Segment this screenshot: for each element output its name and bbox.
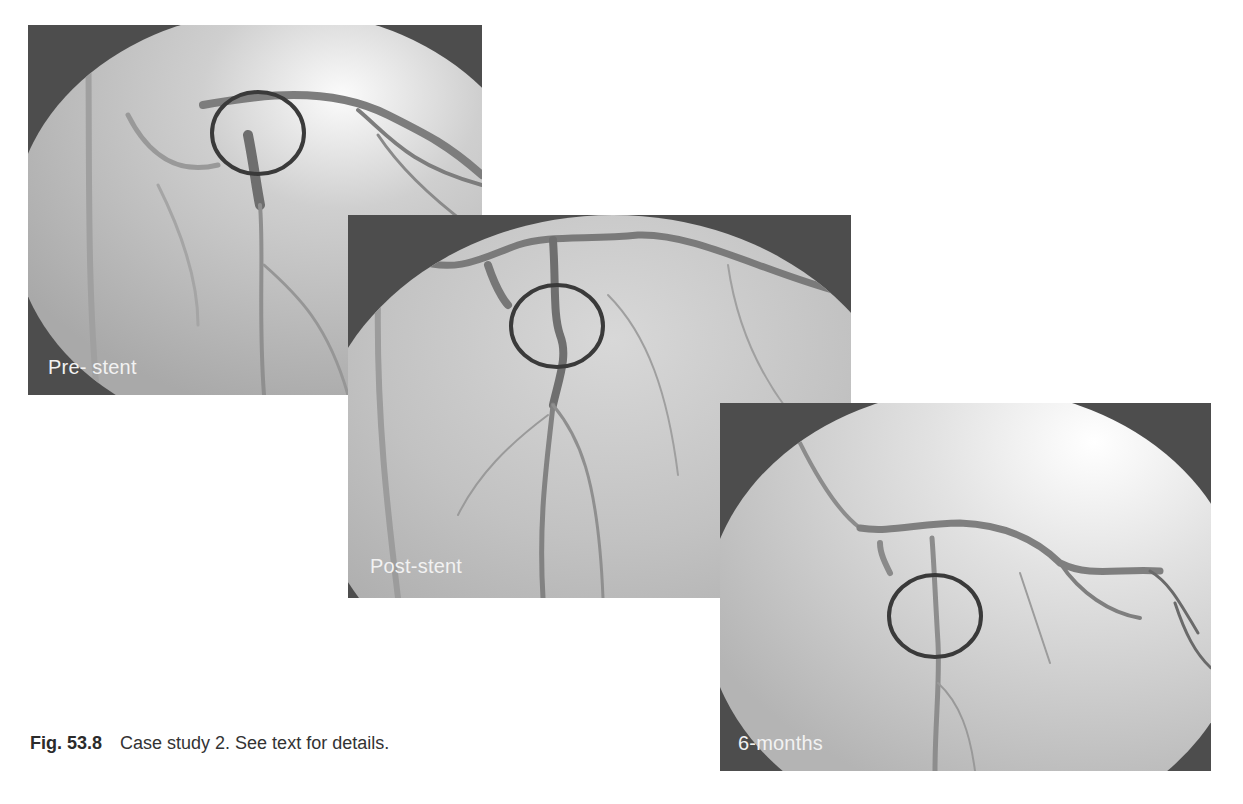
figure-caption-text: Case study 2. See text for details.: [120, 733, 389, 753]
panel-label-pre-stent: Pre- stent: [48, 356, 137, 379]
angiogram-panel-six-months: 6-months: [720, 403, 1211, 771]
figure-number: Fig. 53.8: [30, 733, 102, 753]
angiogram-image-six-months: [720, 403, 1211, 771]
figure-caption: Fig. 53.8Case study 2. See text for deta…: [30, 733, 389, 754]
panel-label-post-stent: Post-stent: [370, 555, 462, 578]
panel-label-six-months: 6-months: [738, 732, 823, 755]
